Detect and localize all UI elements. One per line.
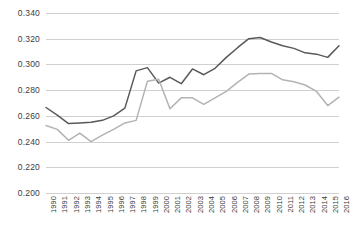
y-axis-tick-label: 0.320 bbox=[18, 34, 40, 44]
x-axis-tick-label: 1993 bbox=[83, 196, 92, 213]
x-axis-tick-label: 2012 bbox=[297, 196, 306, 213]
x-axis-tick-label: 2001 bbox=[173, 196, 182, 213]
y-axis-tick-label: 0.240 bbox=[18, 137, 40, 147]
line-series-series-dark bbox=[46, 37, 339, 123]
x-axis-tick-label: 1994 bbox=[94, 196, 103, 213]
y-axis-tick-label: 0.260 bbox=[18, 111, 40, 121]
y-axis-tick-label: 0.300 bbox=[18, 59, 40, 69]
x-axis-tick-label: 1996 bbox=[117, 196, 126, 213]
x-axis-tick-label: 1995 bbox=[106, 196, 115, 213]
x-axis: 1990199119921993199419951996199719981999… bbox=[46, 194, 339, 238]
x-axis-tick-label: 1999 bbox=[151, 196, 160, 213]
y-axis-tick-label: 0.220 bbox=[18, 162, 40, 172]
x-axis-tick-label: 1992 bbox=[72, 196, 81, 213]
x-axis-tick-label: 2007 bbox=[241, 196, 250, 213]
x-axis-tick-label: 2014 bbox=[320, 196, 329, 213]
x-axis-tick-label: 2010 bbox=[275, 196, 284, 213]
x-axis-tick-label: 1990 bbox=[49, 196, 58, 213]
x-axis-tick-label: 2005 bbox=[218, 196, 227, 213]
x-axis-tick-label: 2008 bbox=[252, 196, 261, 213]
series-layer bbox=[46, 0, 339, 194]
y-axis: 0.3400.3200.3000.2800.2600.2400.2200.200 bbox=[0, 0, 46, 238]
y-axis-tick-label: 0.200 bbox=[18, 188, 40, 198]
x-axis-tick-label: 2011 bbox=[286, 196, 295, 213]
x-axis-tick-label: 2016 bbox=[342, 196, 351, 213]
line-series-series-light bbox=[46, 73, 339, 141]
x-axis-tick-label: 2009 bbox=[263, 196, 272, 213]
x-axis-tick-label: 2003 bbox=[196, 196, 205, 213]
x-axis-tick-label: 1991 bbox=[60, 196, 69, 213]
x-axis-tick-label: 2013 bbox=[308, 196, 317, 213]
x-axis-tick-label: 2002 bbox=[184, 196, 193, 213]
x-axis-tick-label: 2000 bbox=[162, 196, 171, 213]
y-axis-tick-label: 0.340 bbox=[18, 8, 40, 18]
y-axis-tick-label: 0.280 bbox=[18, 85, 40, 95]
x-axis-tick-label: 2006 bbox=[230, 196, 239, 213]
x-axis-tick-label: 2015 bbox=[331, 196, 340, 213]
x-axis-tick-label: 2004 bbox=[207, 196, 216, 213]
x-axis-tick-label: 1997 bbox=[128, 196, 137, 213]
x-axis-tick-label: 1998 bbox=[139, 196, 148, 213]
